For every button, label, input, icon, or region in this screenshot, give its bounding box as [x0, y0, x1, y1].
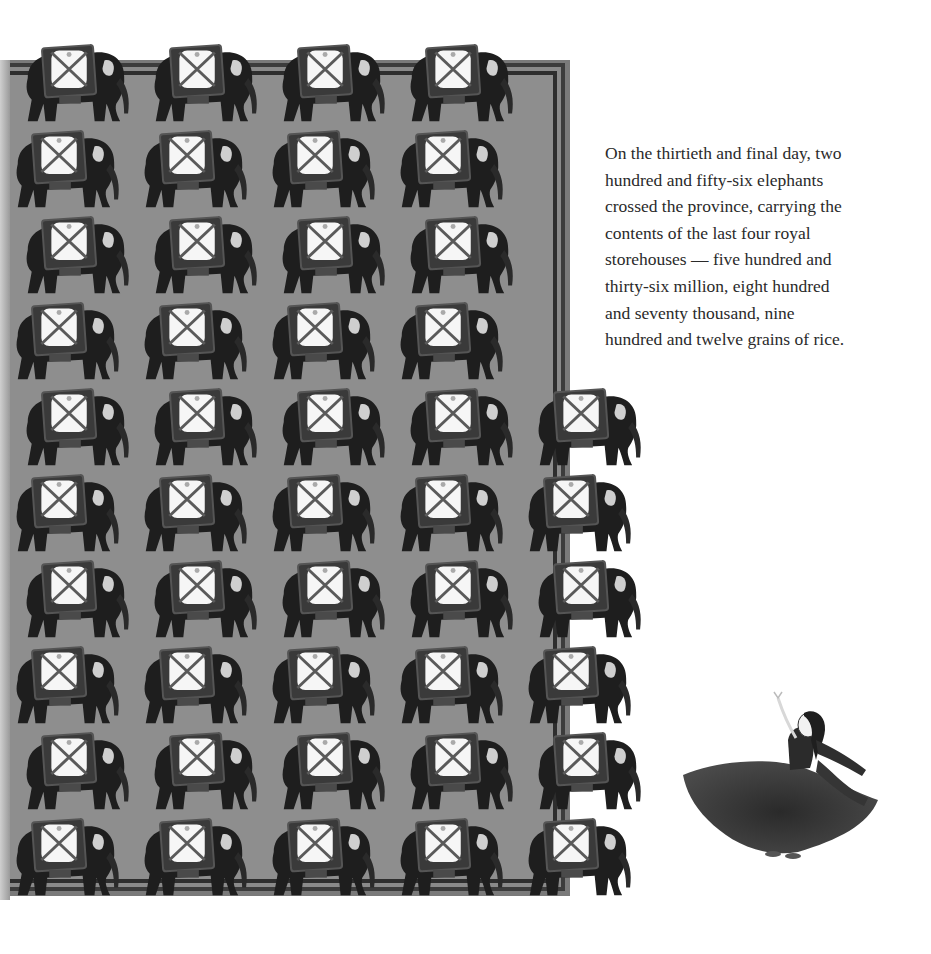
elephant-icon: [132, 296, 250, 388]
story-line: hundred and twelve grains of rice.: [605, 326, 905, 353]
elephant-icon: [526, 382, 644, 474]
elephant-icon: [388, 296, 506, 388]
elephant-icon: [14, 382, 132, 474]
story-line: contents of the last four royal: [605, 220, 905, 247]
elephant-icon: [270, 726, 388, 818]
elephant-icon: [526, 726, 644, 818]
story-line: hundred and fifty-six elephants: [605, 167, 905, 194]
elephant-icon: [526, 554, 644, 646]
elephant-icon: [142, 382, 260, 474]
elephant-icon: [132, 640, 250, 732]
elephant-icon: [14, 554, 132, 646]
elephant-icon: [4, 468, 122, 560]
elephant-icon: [260, 296, 378, 388]
elephant-icon: [260, 124, 378, 216]
elephant-icon: [142, 210, 260, 302]
elephant-icon: [388, 124, 506, 216]
elephant-icon: [388, 468, 506, 560]
elephant-icon: [398, 382, 516, 474]
elephant-icon: [132, 124, 250, 216]
elephant-icon: [260, 640, 378, 732]
elephant-icon: [14, 38, 132, 130]
elephant-icon: [516, 812, 634, 904]
elephant-icon: [388, 640, 506, 732]
elephant-icon: [398, 554, 516, 646]
elephant-icon: [270, 554, 388, 646]
elephant-icon: [132, 812, 250, 904]
elephant-icon: [4, 124, 122, 216]
elephant-icon: [516, 468, 634, 560]
elephant-icon: [398, 38, 516, 130]
elephant-icon: [4, 640, 122, 732]
elephant-icon: [260, 468, 378, 560]
elephant-icon: [260, 812, 378, 904]
elephant-icon: [14, 726, 132, 818]
dancing-girl-illustration: [678, 680, 908, 860]
elephant-icon: [142, 38, 260, 130]
elephant-icon: [14, 210, 132, 302]
story-line: thirty-six million, eight hundred: [605, 273, 905, 300]
elephant-icon: [142, 554, 260, 646]
dancer-icon: [678, 680, 908, 860]
elephant-icon: [388, 812, 506, 904]
elephant-icon: [270, 382, 388, 474]
story-text: On the thirtieth and final day, two hund…: [605, 140, 905, 353]
story-line: crossed the province, carrying the: [605, 193, 905, 220]
elephant-icon: [270, 210, 388, 302]
elephant-icon: [4, 296, 122, 388]
elephant-icon: [398, 210, 516, 302]
elephant-icon: [270, 38, 388, 130]
story-line: On the thirtieth and final day, two: [605, 140, 905, 167]
story-line: and seventy thousand, nine: [605, 300, 905, 327]
elephant-icon: [516, 640, 634, 732]
story-line: storehouses — five hundred and: [605, 246, 905, 273]
elephant-icon: [398, 726, 516, 818]
elephant-icon: [4, 812, 122, 904]
elephant-icon: [142, 726, 260, 818]
elephant-icon: [132, 468, 250, 560]
